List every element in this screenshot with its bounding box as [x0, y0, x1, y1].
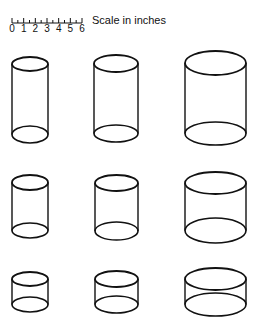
scale-tick-label: 2 — [33, 23, 39, 34]
cylinder-bottom-ellipse — [185, 218, 246, 243]
cylinder-top-ellipse — [12, 272, 48, 286]
cylinder-diagram: 0123456 — [0, 0, 256, 320]
cylinder-bottom-ellipse — [95, 296, 138, 313]
cylinder-bottom-ellipse — [94, 125, 138, 142]
cylinder-bottom-ellipse — [12, 126, 48, 143]
cylinder-row1-col1 — [12, 57, 48, 143]
cylinder-row3-col2 — [95, 271, 138, 313]
cylinder-top-ellipse — [12, 57, 48, 71]
scale-tick-label: 4 — [56, 23, 62, 34]
cylinder-top-ellipse — [185, 51, 246, 75]
scale-label: Scale in inches — [92, 14, 166, 26]
cylinder-top-ellipse — [95, 175, 138, 191]
cylinder-bottom-ellipse — [12, 223, 48, 238]
cylinder-bottom-ellipse — [12, 297, 48, 312]
scale-tick-label: 3 — [44, 23, 50, 34]
cylinder-bottom-ellipse — [185, 122, 246, 145]
scale-tick-label: 1 — [21, 23, 27, 34]
cylinder-row3-col3 — [185, 268, 246, 316]
cylinder-top-ellipse — [185, 268, 246, 290]
cylinder-row1-col3 — [185, 51, 246, 145]
cylinder-top-ellipse — [12, 175, 48, 190]
cylinder-top-ellipse — [94, 55, 138, 72]
cylinder-row2-col3 — [185, 172, 246, 243]
scale-tick-label: 5 — [68, 23, 74, 34]
cylinder-bottom-ellipse — [185, 293, 246, 316]
cylinder-row1-col2 — [94, 55, 138, 142]
scale-bar: 0123456 — [9, 18, 85, 34]
cylinder-top-ellipse — [185, 172, 246, 194]
scale-tick-label: 0 — [9, 23, 15, 34]
cylinder-row2-col1 — [12, 175, 48, 238]
cylinder-top-ellipse — [95, 271, 138, 287]
cylinder-row3-col1 — [12, 272, 48, 312]
cylinder-bottom-ellipse — [95, 222, 138, 240]
cylinder-grid — [12, 51, 246, 316]
scale-tick-label: 6 — [79, 23, 85, 34]
cylinder-row2-col2 — [95, 175, 138, 240]
